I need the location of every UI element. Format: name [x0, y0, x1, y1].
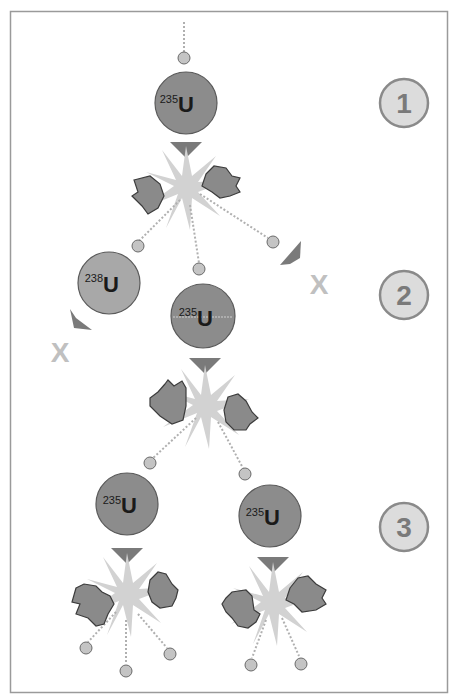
neutron: [132, 240, 144, 252]
nucleus-u235: 235 U: [155, 72, 217, 134]
mass-number: 235: [179, 306, 197, 318]
element-symbol: U: [103, 272, 119, 297]
svg-text:1: 1: [396, 88, 412, 119]
neutron: [164, 648, 176, 660]
fission-chain-diagram: 235 U 238 U X X 235 U: [0, 0, 455, 698]
neutron: [267, 236, 279, 248]
neutron: [295, 658, 307, 670]
neutron: [178, 52, 190, 64]
mass-number: 238: [85, 272, 103, 284]
neutron: [80, 642, 92, 654]
step-badge-2: 2: [380, 271, 428, 319]
element-symbol: U: [178, 92, 194, 117]
mass-number: 235: [160, 93, 178, 105]
step-badge-3: 3: [380, 503, 428, 551]
svg-text:3: 3: [396, 512, 412, 543]
neutron: [245, 659, 257, 671]
nucleus-u235-right: 235 U: [239, 485, 301, 547]
element-symbol: U: [121, 493, 137, 518]
element-symbol: U: [197, 306, 213, 331]
mass-number: 235: [103, 494, 121, 506]
neutron: [193, 263, 205, 275]
step-badge-1: 1: [380, 79, 428, 127]
nucleus-u235-left: 235 U: [96, 473, 158, 535]
absorbed-x-mark: X: [51, 337, 70, 368]
mass-number: 235: [246, 506, 264, 518]
escaped-x-mark: X: [310, 269, 329, 300]
nucleus-u238: 238 U: [78, 252, 140, 314]
neutron: [239, 468, 251, 480]
neutron: [144, 457, 156, 469]
element-symbol: U: [264, 505, 280, 530]
neutron: [120, 665, 132, 677]
nucleus-u235: 235 U: [171, 284, 235, 348]
svg-text:2: 2: [396, 280, 412, 311]
